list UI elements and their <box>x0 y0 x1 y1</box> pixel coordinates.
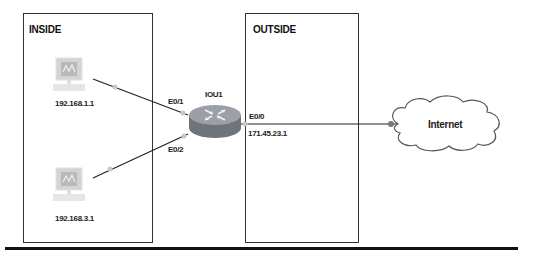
internet-label[interactable]: Internet <box>428 119 462 130</box>
link-pc2-router <box>93 134 188 178</box>
pc1-computer-icon[interactable] <box>50 56 90 94</box>
link-pc1-midpoint <box>113 85 118 90</box>
link-pc2-router-endpoint <box>182 134 187 139</box>
interface-e0-1-label: E0/1 <box>168 97 183 106</box>
link-pc1-router-endpoint <box>181 111 186 116</box>
link-pc2-midpoint <box>108 167 113 172</box>
outside-ip-label: 171.45.23.1 <box>248 129 287 138</box>
interface-e0-0-label: E0/0 <box>249 112 264 121</box>
link-router-endpoint <box>243 122 248 127</box>
pc2-computer-icon[interactable] <box>50 166 90 204</box>
pc1-ip-label: 192.168.1.1 <box>55 99 94 108</box>
interface-e0-2-label: E0/2 <box>168 145 183 154</box>
pc2-ip-label: 192.168.3.1 <box>55 214 94 223</box>
router-icon[interactable] <box>187 103 243 145</box>
router-name-label: IOU1 <box>205 90 222 99</box>
bottom-divider <box>5 247 518 250</box>
link-internet-endpoint <box>388 121 394 127</box>
